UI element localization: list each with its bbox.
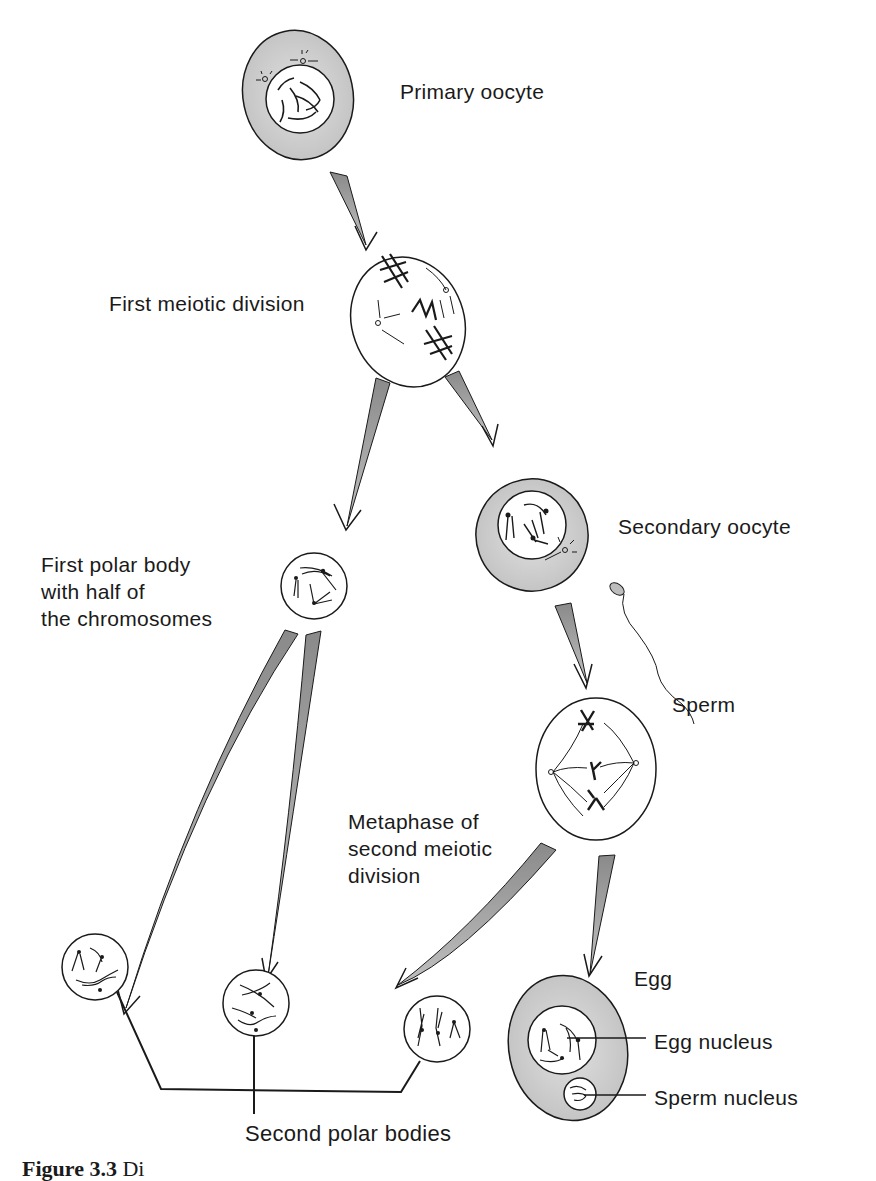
arrow-to-secondary-oocyte [445, 371, 498, 446]
second-polar-body-left [62, 934, 128, 1000]
second-polar-body-middle [223, 970, 289, 1036]
arrow-metaphase-to-egg [584, 855, 615, 976]
label-secondary-oocyte: Secondary oocyte [618, 513, 791, 540]
arrow-to-first-polar-body [334, 378, 390, 530]
primary-oocyte-cell [231, 20, 366, 170]
label-sperm-nucleus: Sperm nucleus [654, 1084, 798, 1111]
label-first-meiotic-division: First meiotic division [109, 290, 305, 317]
figure-caption-label: Figure 3.3 [22, 1156, 117, 1181]
metaphase-second-division-cell [536, 698, 656, 840]
label-metaphase-second-division: Metaphase of second meiotic division [348, 808, 492, 889]
label-first-polar-body: First polar body with half of the chromo… [41, 551, 212, 632]
arrow-primary-to-first-division [330, 172, 377, 250]
label-sperm: Sperm [672, 691, 735, 718]
figure-caption: Figure 3.3 Di [22, 1158, 144, 1180]
first-polar-body-cell [281, 553, 347, 619]
label-egg: Egg [634, 965, 672, 992]
label-primary-oocyte: Primary oocyte [400, 78, 544, 105]
figure-caption-text: Di [117, 1156, 145, 1181]
label-second-polar-bodies: Second polar bodies [245, 1120, 451, 1147]
secondary-oocyte-cell [460, 463, 604, 607]
egg-cell [495, 964, 646, 1131]
label-egg-nucleus: Egg nucleus [654, 1028, 773, 1055]
second-polar-body-right [404, 996, 470, 1062]
arrow-to-metaphase-second [555, 603, 592, 688]
arrow-first-polar-to-middle-second-polar [262, 631, 321, 980]
